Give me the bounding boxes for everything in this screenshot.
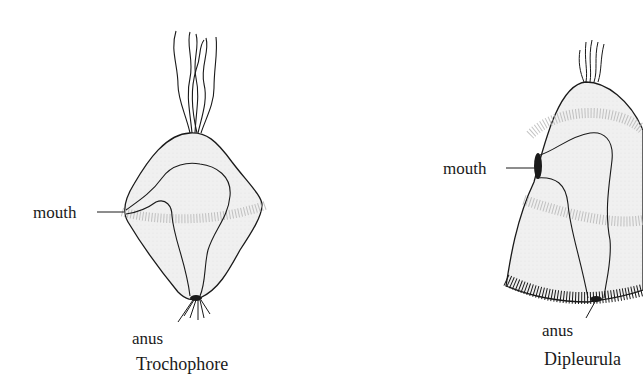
trochophore-drawing [97,31,266,322]
dipleurula-drawing [506,40,643,318]
dipleurula-apical-tuft [579,40,604,82]
dipleurula-caption: Dipleurula [544,350,621,368]
trochophore-anal-cilia [178,300,210,322]
trochophore-mouth-label: mouth [33,204,76,221]
trochophore-body [125,133,262,300]
dipleurula-anus-label: anus [542,322,573,339]
trochophore-apical-tuft [174,31,217,133]
dipleurula-body [506,82,643,302]
dipleurula-mouth-label: mouth [443,160,486,177]
dipleurula-mouth [534,153,542,179]
trochophore-caption: Trochophore [136,355,228,373]
dipleurula-anus [590,296,602,302]
trochophore-anus-label: anus [132,330,163,347]
